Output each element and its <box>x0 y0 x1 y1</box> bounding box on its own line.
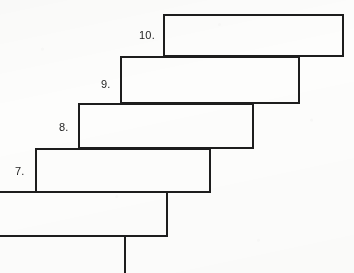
cascading-steps-diagram <box>0 0 354 273</box>
step-label-10: 10. <box>139 30 155 41</box>
step-label-7: 7. <box>15 166 25 177</box>
step-label-8: 8. <box>59 122 69 133</box>
diagram-background <box>0 0 354 273</box>
step-label-9: 9. <box>101 79 111 90</box>
figure-root: 10. 9. 8. 7. <box>0 0 354 273</box>
